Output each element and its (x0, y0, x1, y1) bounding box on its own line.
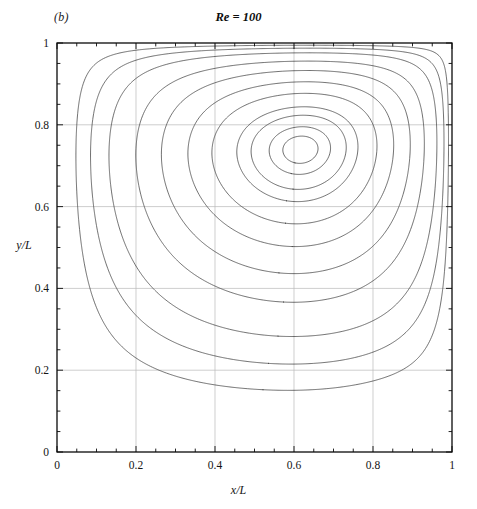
contour-lines (76, 45, 449, 390)
x-tick-label: 0.6 (287, 459, 302, 471)
x-tick-label: 0.8 (366, 459, 381, 471)
y-tick-label: 0 (43, 446, 49, 458)
x-tick-label: 1 (449, 459, 455, 471)
y-tick-label: 0.2 (35, 364, 50, 376)
plot-frame (57, 43, 452, 452)
tick-labels: 00.20.40.60.8100.20.40.60.81 (35, 37, 456, 471)
x-axis-title: x/L (0, 483, 477, 498)
y-tick-label: 0.6 (35, 201, 50, 213)
figure-container: (b) Re = 100 00.20.40.60.8100.20.40.60.8… (0, 0, 477, 509)
contour-plot-svg: 00.20.40.60.8100.20.40.60.81 (0, 0, 477, 509)
y-axis-title: y/L (4, 238, 44, 253)
y-tick-label: 1 (43, 37, 49, 49)
x-tick-label: 0.4 (208, 459, 223, 471)
x-tick-label: 0.2 (129, 459, 144, 471)
y-tick-label: 0.8 (35, 119, 50, 131)
x-tick-label: 0 (54, 459, 60, 471)
plot-title: Re = 100 (0, 10, 477, 25)
tick-marks (57, 43, 452, 452)
grid-lines (57, 43, 452, 452)
y-tick-label: 0.4 (35, 282, 50, 294)
